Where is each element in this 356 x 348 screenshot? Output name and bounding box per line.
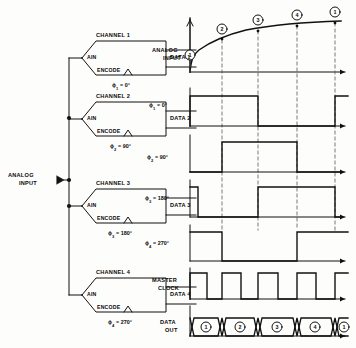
channel-3-name: CHANNEL 3 [96,180,130,186]
channel-3-phase-value: = 180° [116,230,132,236]
channel-2-data-label: DATA 2 [170,115,191,121]
channel-3-encode-label: ENCODE [97,215,121,221]
analog-input-label-line1: ANALOG [8,172,34,178]
sample-marker-5: 1 [334,9,337,15]
channel-3-phase-index: 3 [112,234,115,239]
channel-2-ain-label: AIN [87,115,97,121]
channel-1-phase-value: = 0° [120,82,130,88]
waveform-label-phi2-index: 2 [151,158,154,163]
waveform-phi1 [190,88,348,129]
data-out-marker-4: 4 [314,324,317,330]
channel-4-data-label: DATA 4 [170,291,191,297]
sample-marker-3: 3 [257,17,260,23]
waveform-data-out [190,306,349,339]
waveform-master-clock [190,268,348,302]
waveform-phi2 [190,135,345,175]
waveform-label-master-clock-line2: CLOCK [158,285,179,291]
channel-4-encode-label: ENCODE [97,304,121,310]
waveform-label-phi1-value: = 0° [157,102,167,108]
waveform-label-data-out-line1: DATA [160,319,176,325]
waveform-label-master-clock-line1: MASTER [152,277,177,283]
waveform-label-phi2-value: = 90° [155,154,168,160]
channel-3-ain-label: AIN [87,202,97,208]
sample-marker-group [185,7,340,60]
waveform-phi3 [190,180,345,220]
data-out-marker-3: 3 [276,324,279,330]
channel-4-ain-label: AIN [87,291,97,297]
sample-marker-4: 4 [296,12,299,18]
sample-marker-2: 2 [221,26,224,32]
waveform-label-analog-line1: ANALOG [152,47,178,53]
channel-2-name: CHANNEL 2 [96,93,130,99]
waveform-label-data-out-line2: OUT [165,327,178,333]
waveform-phi4 [190,225,348,264]
analog-input-feed [57,58,71,295]
channel-1-ain-label: AIN [87,54,97,60]
channel-4-phase-value: = 270° [116,319,132,325]
data-out-marker-1: 1 [205,324,208,330]
data-out-marker-2: 2 [239,324,242,330]
data-out-marker-5: 1 [343,324,346,330]
analog-input-label-line2: INPUT [19,180,37,186]
channel-1-name: CHANNEL 1 [96,32,130,38]
channel-3-data-label: DATA 3 [170,202,191,208]
diagram-canvas: ANALOG INPUT CHANNEL 1 AIN ENCODE DATA 1… [0,0,356,348]
channel-4-name: CHANNEL 4 [96,269,131,275]
channel-2-encode-label: ENCODE [97,128,121,134]
sample-marker-1: 1 [189,52,192,58]
timing-diagram-svg: ANALOG INPUT CHANNEL 1 AIN ENCODE DATA 1… [0,0,356,348]
channel-1-phase-index: 1 [116,86,119,91]
waveform-label-phi4-index: 4 [149,244,152,249]
waveform-label-phi4-value: = 270° [153,240,169,246]
waveform-label-phi3-index: 3 [149,199,152,204]
channel-1-encode-label: ENCODE [97,67,121,73]
channel-2-phase-value: = 90° [118,143,131,149]
waveform-label-analog-line2: INPUT [163,55,181,61]
channel-2-phase-index: 2 [114,147,117,152]
waveform-label-phi1-index: 1 [153,106,156,111]
channel-4-phase-index: 4 [112,323,115,328]
analog-input-curve [190,21,341,72]
waveform-label-phi3-value: = 180° [153,195,169,201]
